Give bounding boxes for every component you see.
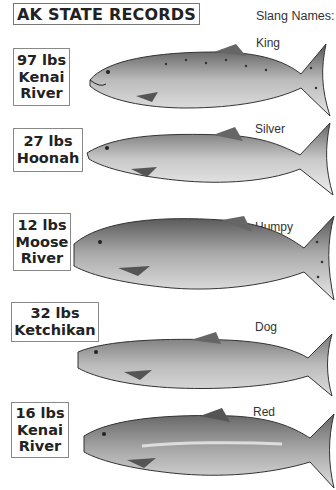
- title-box: AK STATE RECORDS: [13, 3, 200, 25]
- record-location: Kenai: [19, 69, 65, 86]
- dog-salmon-illustration: [76, 330, 336, 400]
- record-location: River: [20, 85, 63, 102]
- record-box-humpy: 12 lbs Moose River: [13, 213, 71, 271]
- record-weight: 27 lbs: [23, 133, 72, 150]
- record-weight: 32 lbs: [30, 305, 79, 322]
- red-salmon-illustration: [82, 408, 336, 490]
- record-weight: 12 lbs: [17, 217, 66, 234]
- record-location: Hoonah: [17, 150, 80, 167]
- record-location: Kenai: [17, 422, 63, 439]
- record-box-king: 97 lbs Kenai River: [13, 48, 70, 106]
- king-salmon-illustration: [86, 38, 336, 120]
- record-weight: 97 lbs: [17, 52, 66, 69]
- slang-names-header: Slang Names:: [256, 9, 335, 23]
- page-title: AK STATE RECORDS: [17, 5, 196, 24]
- record-location: River: [19, 438, 62, 455]
- silver-salmon-illustration: [85, 123, 335, 205]
- record-box-dog: 32 lbs Ketchikan: [11, 302, 99, 342]
- record-location: Ketchikan: [14, 322, 95, 339]
- record-box-silver: 27 lbs Hoonah: [13, 128, 83, 172]
- humpy-salmon-illustration: [72, 212, 336, 302]
- record-weight: 16 lbs: [15, 405, 64, 422]
- record-location: Moose: [16, 234, 69, 251]
- record-location: River: [21, 250, 64, 267]
- record-box-red: 16 lbs Kenai River: [11, 402, 69, 458]
